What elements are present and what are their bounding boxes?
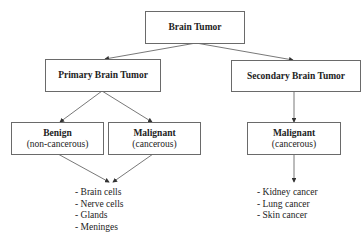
arrow-root-to-secondary	[196, 43, 293, 60]
malignant-primary-node: Malignant (cancerous)	[108, 122, 201, 155]
primary-sites-list: - Brain cells - Nerve cells - Glands - M…	[75, 187, 124, 233]
malignant-secondary-subtitle: (cancerous)	[272, 139, 316, 150]
list-item: - Glands	[75, 210, 124, 222]
malignant-primary-title: Malignant	[133, 128, 175, 139]
malignant-secondary-title: Malignant	[273, 128, 315, 139]
arrow-malignant-to-sites	[113, 154, 153, 182]
malignant-secondary-node: Malignant (cancerous)	[247, 122, 341, 155]
list-item: - Kidney cancer	[257, 187, 318, 199]
secondary-sites-list: - Kidney cancer - Lung cancer - Skin can…	[257, 187, 318, 222]
arrow-benign-to-sites	[58, 154, 109, 182]
arrow-primary-to-benign	[60, 91, 102, 122]
list-item: - Lung cancer	[257, 199, 318, 211]
benign-subtitle: (non-cancerous)	[27, 139, 89, 150]
benign-title: Benign	[43, 128, 72, 139]
benign-node: Benign (non-cancerous)	[11, 122, 104, 155]
list-item: - Skin cancer	[257, 210, 318, 222]
arrow-primary-to-malignant	[102, 91, 152, 122]
arrow-root-to-primary	[105, 43, 196, 59]
primary-brain-tumor-label: Primary Brain Tumor	[58, 70, 148, 81]
brain-tumor-label: Brain Tumor	[168, 22, 221, 33]
primary-brain-tumor-node: Primary Brain Tumor	[45, 59, 161, 92]
list-item: - Brain cells	[75, 187, 124, 199]
list-item: - Meninges	[75, 222, 124, 234]
malignant-primary-subtitle: (cancerous)	[132, 139, 176, 150]
secondary-brain-tumor-label: Secondary Brain Tumor	[247, 71, 345, 82]
brain-tumor-node: Brain Tumor	[145, 11, 245, 44]
list-item: - Nerve cells	[75, 199, 124, 211]
secondary-brain-tumor-node: Secondary Brain Tumor	[231, 60, 361, 92]
